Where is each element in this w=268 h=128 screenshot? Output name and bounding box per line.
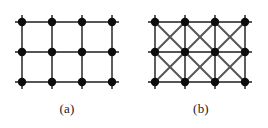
lattice-node: [181, 48, 189, 56]
lattice-node: [48, 48, 56, 56]
figure-root: (a) (b): [0, 0, 268, 128]
lattice-node: [211, 48, 219, 56]
lattice-node: [108, 78, 116, 86]
lattice-node: [108, 18, 116, 26]
lattice-node: [18, 18, 26, 26]
lattice-node: [181, 78, 189, 86]
lattice-diagram-a: [0, 0, 134, 100]
panel-a: (a): [0, 0, 134, 128]
caption-b: (b): [134, 101, 268, 117]
lattice-node: [18, 48, 26, 56]
lattice-diagram-b: [134, 0, 268, 100]
lattice-node: [78, 18, 86, 26]
lattice-node: [18, 78, 26, 86]
panel-b: (b): [134, 0, 268, 128]
lattice-node: [241, 18, 249, 26]
lattice-node: [151, 18, 159, 26]
caption-a: (a): [0, 101, 134, 117]
lattice-node: [151, 48, 159, 56]
lattice-node: [181, 18, 189, 26]
lattice-node: [78, 48, 86, 56]
lattice-node: [241, 78, 249, 86]
lattice-node: [211, 78, 219, 86]
lattice-node: [241, 48, 249, 56]
lattice-node: [151, 78, 159, 86]
lattice-node: [48, 78, 56, 86]
lattice-node: [78, 78, 86, 86]
lattice-node: [108, 48, 116, 56]
lattice-node: [211, 18, 219, 26]
lattice-node: [48, 18, 56, 26]
